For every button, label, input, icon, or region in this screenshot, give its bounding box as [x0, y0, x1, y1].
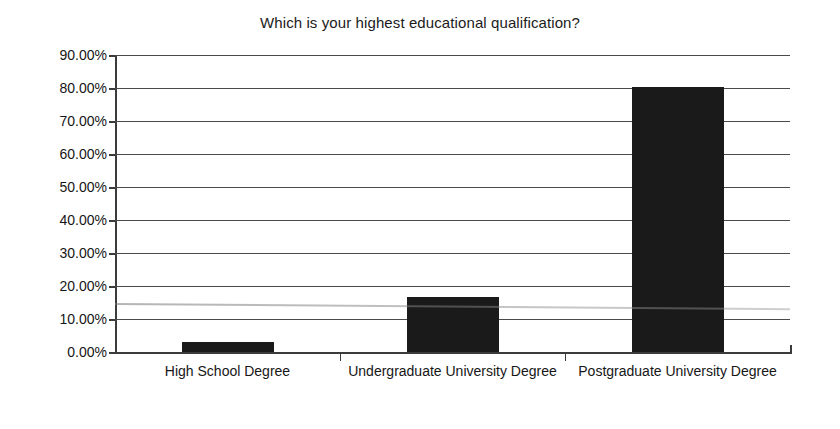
y-tick-label: 20.00% [7, 278, 107, 294]
x-axis-line [113, 352, 792, 354]
y-tick-label: 60.00% [7, 146, 107, 162]
x-axis-tick [565, 352, 566, 361]
bar [407, 297, 499, 352]
x-axis-category-label: Undergraduate University Degree [340, 362, 565, 381]
x-axis-tick [340, 352, 341, 361]
y-tick-label: 0.00% [7, 344, 107, 360]
y-tick-label: 30.00% [7, 245, 107, 261]
gridline [115, 55, 790, 56]
bar [182, 342, 274, 352]
y-tick-label: 80.00% [7, 80, 107, 96]
bar-chart: Which is your highest educational qualif… [0, 0, 840, 429]
y-tick-label: 90.00% [7, 47, 107, 63]
x-axis-category-label: Postgraduate University Degree [565, 362, 790, 381]
x-axis-category-label: High School Degree [115, 362, 340, 381]
chart-title: Which is your highest educational qualif… [0, 14, 840, 31]
y-tick-label: 70.00% [7, 113, 107, 129]
x-axis-start-tick [115, 345, 117, 353]
y-tick-label: 10.00% [7, 311, 107, 327]
plot-area [115, 55, 790, 352]
y-axis-labels: 0.00%10.00%20.00%30.00%40.00%50.00%60.00… [0, 0, 107, 429]
y-tick-label: 40.00% [7, 212, 107, 228]
y-tick-label: 50.00% [7, 179, 107, 195]
bar [632, 87, 724, 352]
x-axis-end-tick [790, 345, 792, 353]
